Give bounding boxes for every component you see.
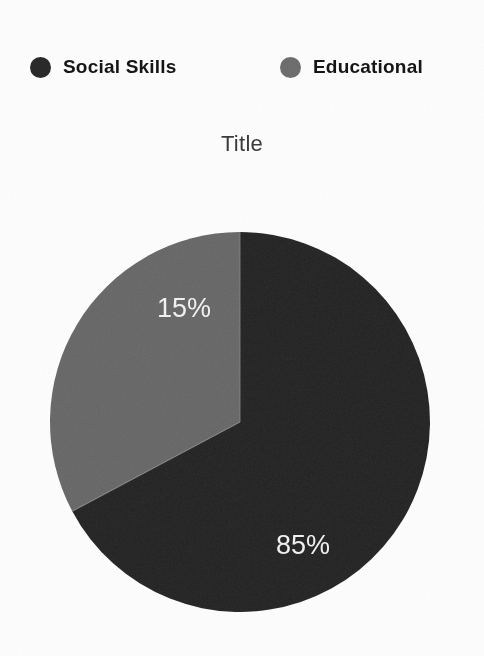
legend-label-social-skills: Social Skills [63,56,177,78]
legend-item-social-skills[interactable]: Social Skills [30,50,177,84]
chart-title: Title [0,131,484,157]
pie-label-educational: 15% [157,293,211,323]
chart-legend: Social Skills Educational [0,50,484,84]
legend-marker-educational-icon [280,57,301,78]
legend-marker-social-skills-icon [30,57,51,78]
legend-item-educational[interactable]: Educational [280,50,423,84]
pie-chart-svg: 15% 85% [48,230,432,614]
pie-label-social-skills: 85% [276,530,330,560]
pie-chart: 15% 85% [48,230,432,614]
legend-label-educational: Educational [313,56,423,78]
